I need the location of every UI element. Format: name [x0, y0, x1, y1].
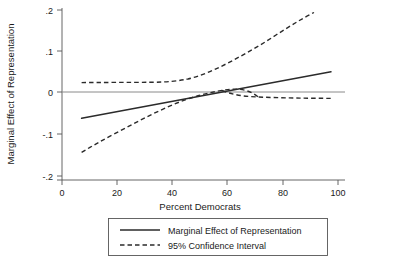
lower-confidence-interval-line — [82, 89, 331, 152]
x-tick-label-2: 40 — [167, 188, 177, 198]
x-tick-label-3: 60 — [222, 188, 232, 198]
chart-legend: Marginal Effect of Representation 95% Co… — [109, 219, 328, 256]
x-tick-label-5: 100 — [330, 188, 345, 198]
x-tick-label-4: 80 — [278, 188, 288, 198]
marginal-effect-line — [82, 72, 331, 119]
x-tick-marks — [62, 180, 338, 185]
y-axis-title: Marginal Effect of Representation — [5, 24, 16, 165]
y-tick-marks — [57, 10, 62, 176]
upper-confidence-interval-line — [82, 13, 314, 83]
x-tick-label-1: 20 — [112, 188, 122, 198]
legend-label-confidence-interval: 95% Confidence Interval — [168, 241, 266, 251]
y-tick-label-0: .2 — [45, 6, 53, 16]
y-tick-label-2: 0 — [48, 88, 53, 98]
chart-svg: Marginal Effect of Representation .2 .1 … — [0, 0, 394, 260]
marginal-effects-chart: Marginal Effect of Representation .2 .1 … — [0, 0, 394, 260]
legend-label-marginal-effect: Marginal Effect of Representation — [168, 226, 301, 236]
y-tick-label-1: .1 — [45, 47, 53, 57]
y-tick-label-4: -.2 — [42, 172, 53, 182]
x-tick-label-0: 0 — [59, 188, 64, 198]
x-axis-title: Percent Democrats — [159, 201, 241, 212]
x-tick-labels: 0 20 40 60 80 100 — [59, 188, 345, 198]
y-tick-label-3: -.1 — [42, 130, 53, 140]
y-tick-labels: .2 .1 0 -.1 -.2 — [42, 6, 53, 182]
